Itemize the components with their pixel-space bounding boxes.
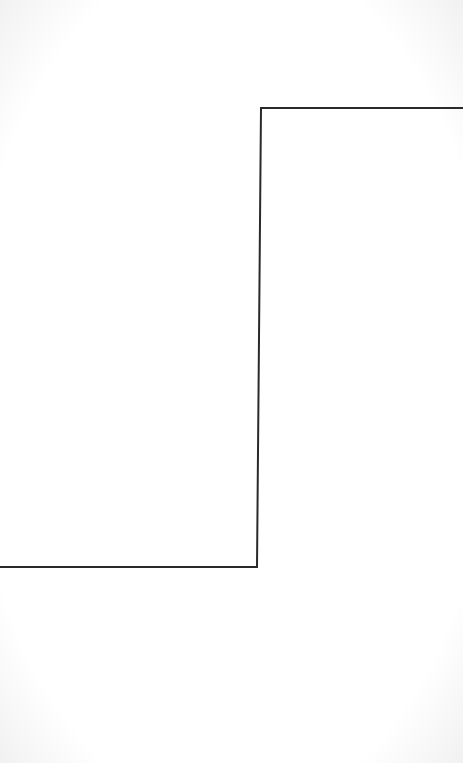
drawing-canvas <box>0 0 463 763</box>
step-line <box>0 108 463 567</box>
step-line-drawing <box>0 0 463 763</box>
